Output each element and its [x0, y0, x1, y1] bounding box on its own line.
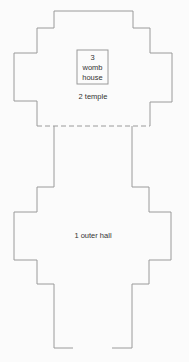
temple-floor-plan: 3 womb house 2 temple 1 outer hall — [0, 0, 189, 362]
womb-house-number: 3 — [90, 53, 94, 62]
womb-house-label-line1: womb — [81, 63, 102, 72]
temple-label: 2 temple — [79, 92, 108, 101]
outer-hall-label: 1 outer hall — [74, 231, 111, 240]
womb-house-label-line2: house — [82, 73, 102, 82]
